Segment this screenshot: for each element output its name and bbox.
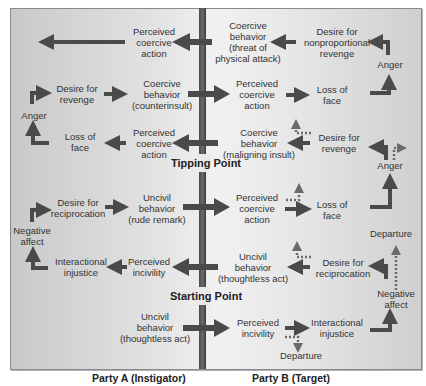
b-perceived-incivility: Perceived incivility bbox=[234, 317, 282, 339]
b-desire-nonproportional-revenge: Desire for nonproportional revenge bbox=[300, 26, 374, 59]
a-interactional-injustice: Interactional injustice bbox=[50, 256, 112, 278]
b-perceived-coercive-action-1: Perceived coercive action bbox=[228, 78, 286, 111]
b-loss-of-face-2: Loss of face bbox=[310, 199, 354, 221]
tipping-point-label: Tipping Point bbox=[166, 157, 246, 169]
a-negative-affect: Negative affect bbox=[10, 225, 54, 247]
b-coercive-behavior-maligning-insult: Coercive behavior (maligning insult) bbox=[218, 127, 300, 160]
b-desire-for-reciprocation: Desire for reciprocation bbox=[312, 257, 374, 279]
a-perceived-coercive-action-1: Perceived coercive action bbox=[126, 26, 182, 59]
b-perceived-coercive-action-2: Perceived coercive action bbox=[228, 192, 286, 225]
b-coercive-behavior-threat: Coercive behavior (threat of physical at… bbox=[214, 20, 282, 64]
b-departure-1: Departure bbox=[366, 228, 416, 239]
party-a-label: Party A (Instigator) bbox=[92, 372, 186, 384]
party-b-label: Party B (Target) bbox=[252, 372, 330, 384]
starting-point-label: Starting Point bbox=[166, 290, 246, 302]
a-coercive-behavior-counterinsult: Coercive behavior (counterinsult) bbox=[122, 78, 202, 111]
b-anger-1: Anger bbox=[372, 59, 408, 70]
a-uncivil-behavior-thoughtless-act: Uncivil behavior (thoughtless act) bbox=[116, 311, 194, 344]
a-desire-for-revenge: Desire for revenge bbox=[50, 83, 104, 105]
a-perceived-coercive-action-2: Perceived coercive action bbox=[126, 127, 182, 160]
a-perceived-incivility: Perceived incivility bbox=[126, 256, 172, 278]
a-uncivil-behavior-rude-remark: Uncivil behavior (rude remark) bbox=[124, 192, 190, 225]
a-anger: Anger bbox=[16, 110, 52, 121]
b-departure-2: Departure bbox=[276, 350, 326, 361]
b-anger-2: Anger bbox=[372, 160, 408, 171]
b-interactional-injustice: Interactional injustice bbox=[306, 317, 368, 339]
a-loss-of-face: Loss of face bbox=[58, 131, 102, 153]
center-divider-bar bbox=[199, 8, 206, 369]
b-desire-for-revenge: Desire for revenge bbox=[314, 132, 364, 154]
b-uncivil-behavior-thoughtless-act: Uncivil behavior (thoughtless act) bbox=[214, 251, 292, 284]
b-negative-affect: Negative affect bbox=[374, 288, 418, 310]
b-loss-of-face-1: Loss of face bbox=[310, 84, 354, 106]
a-desire-for-reciprocation: Desire for reciprocation bbox=[48, 197, 108, 219]
